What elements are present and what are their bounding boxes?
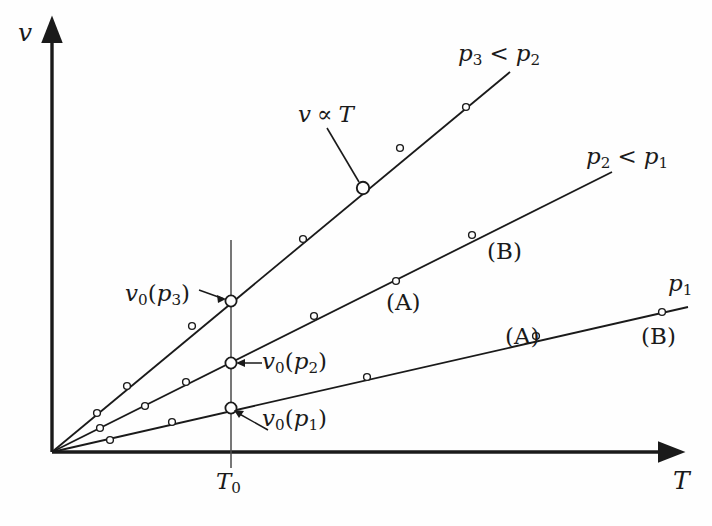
proportionality-v: v [298, 101, 311, 127]
data-point [94, 410, 101, 417]
data-point [169, 419, 176, 426]
plot-canvas [0, 0, 712, 526]
proportional-to-icon: ∝ [317, 101, 333, 127]
data-point [142, 403, 149, 410]
p2-sub: 2 [601, 154, 611, 172]
p2-base: p [586, 143, 601, 169]
intercept-marker-p1 [225, 402, 236, 413]
v0-p1-open-paren: ( [285, 405, 294, 431]
p2-sub: 2 [530, 51, 540, 69]
less-than-icon: < [489, 40, 508, 66]
annotation-v0-p3: v0(p3) [125, 282, 190, 308]
branch-label-p2-a: (A) [386, 291, 421, 314]
v0-p3-sub0: 0 [138, 291, 148, 309]
branch-label-p1-a: (A) [505, 325, 540, 348]
p1-sub: 1 [658, 154, 668, 172]
v0-p3-close-paren: ) [181, 280, 190, 306]
v0-p3-sub: 3 [171, 291, 181, 309]
intercept-marker-p2 [225, 357, 236, 368]
v0-p1-p: p [294, 405, 309, 431]
v0-p3-open-paren: ( [148, 280, 157, 306]
data-point [469, 232, 476, 239]
v0-p2-sub: 2 [308, 359, 318, 377]
proportionality-T: T [339, 101, 354, 127]
p1-sub: 1 [683, 281, 693, 299]
branch-label-p2-b: (B) [487, 240, 522, 263]
figure-container: v T T0 v∝T v0(p3) v0(p2) v0(p1) p3<p2 p2… [0, 0, 712, 526]
v0-p1-sub0: 0 [275, 416, 285, 434]
v0-p2-p: p [294, 348, 309, 374]
data-point [393, 278, 400, 285]
data-point [300, 236, 307, 243]
x-axis-label: T [673, 468, 690, 493]
v0-p1-close-paren: ) [318, 405, 327, 431]
annotation-proportionality: v∝T [298, 103, 354, 126]
data-point [397, 145, 404, 152]
p3-base: p [458, 40, 473, 66]
data-point [124, 383, 131, 390]
leader-line-proportionality [327, 128, 359, 182]
trend-line-p2 [52, 172, 612, 452]
data-point [659, 309, 666, 316]
y-axis-label: v [18, 20, 32, 45]
v0-p2-open-paren: ( [285, 348, 294, 374]
v0-p1-sub: 1 [308, 416, 318, 434]
p2-base: p [516, 40, 531, 66]
series-label-p2: p2<p1 [586, 145, 668, 171]
data-point [97, 425, 104, 432]
data-point [189, 323, 196, 330]
data-point [107, 437, 114, 444]
branch-label-p1-b: (B) [641, 325, 676, 348]
x-tick-label-t0: T0 [216, 470, 241, 496]
v0-p2-base: v [262, 348, 275, 374]
leader-arrow-v0-p1 [234, 410, 244, 418]
p1-base: p [668, 270, 683, 296]
highlight-marker-proportionality [357, 182, 369, 194]
data-point [463, 104, 470, 111]
annotation-v0-p1: v0(p1) [262, 407, 327, 433]
series-label-p1: p1 [668, 272, 692, 298]
v0-p1-base: v [262, 405, 275, 431]
data-point [183, 379, 190, 386]
less-than-icon: < [617, 143, 636, 169]
data-point [364, 374, 371, 381]
p1-base: p [644, 143, 659, 169]
annotation-v0-p2: v0(p2) [262, 350, 327, 376]
p3-sub: 3 [473, 51, 483, 69]
v0-p2-sub0: 0 [275, 359, 285, 377]
x-tick-label-base: T [216, 468, 231, 494]
v0-p3-base: v [125, 280, 138, 306]
intercept-marker-p3 [225, 295, 236, 306]
data-point [311, 313, 318, 320]
x-tick-label-sub: 0 [231, 479, 241, 497]
v0-p2-close-paren: ) [318, 348, 327, 374]
trend-line-p3 [52, 72, 510, 452]
v0-p3-p: p [157, 280, 172, 306]
series-label-p3: p3<p2 [458, 42, 540, 68]
